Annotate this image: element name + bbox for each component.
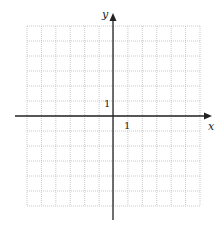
x-tick-label: 1 — [124, 120, 130, 131]
y-axis-label: y — [101, 8, 109, 21]
x-axis-label: x — [208, 120, 215, 133]
y-tick-label: 1 — [104, 98, 110, 109]
x-axis-arrow-icon — [204, 113, 212, 120]
coordinate-plane: x y 1 1 — [0, 0, 224, 231]
y-axis-arrow-icon — [110, 13, 117, 21]
